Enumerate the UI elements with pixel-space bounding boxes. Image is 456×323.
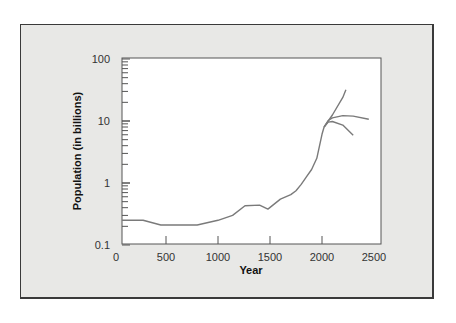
x-tick-label: 2000 — [310, 251, 334, 263]
x-axis-title: Year — [239, 264, 263, 276]
y-tick-label: 0.1 — [95, 239, 110, 251]
population-chart: 0.1110100 05001000150020002500 Year Popu… — [0, 0, 456, 323]
x-tick-label: 1500 — [258, 251, 282, 263]
x-tick-label: 1000 — [206, 251, 230, 263]
y-tick-label: 1 — [104, 177, 110, 189]
y-tick-label: 10 — [98, 115, 110, 127]
x-tick-label: 0 — [113, 251, 119, 263]
x-tick-label: 500 — [157, 251, 175, 263]
y-tick-label: 100 — [92, 53, 110, 65]
plot-area — [122, 58, 381, 244]
y-axis-title: Population (in billions) — [71, 91, 83, 210]
x-tick-label: 2500 — [362, 251, 386, 263]
